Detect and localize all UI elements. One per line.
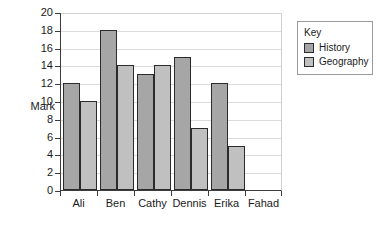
plot-area [60, 13, 282, 191]
x-tick-label-dennis: Dennis [172, 197, 206, 210]
y-axis-ticks: 02468101214161820 [0, 13, 60, 191]
bar-group [246, 13, 283, 190]
y-tick-label: 0 [47, 184, 53, 196]
bar-erika-history [211, 83, 228, 190]
legend-box: Key History Geography [297, 21, 373, 75]
legend-title: Key [304, 27, 367, 39]
x-tick-mark [281, 191, 282, 196]
bar-chart: Mark 02468101214161820 AliBenCathyDennis… [0, 0, 380, 233]
y-tick-label: 6 [47, 131, 53, 143]
legend-item-history: History [304, 42, 367, 54]
x-tick-mark [60, 191, 61, 196]
y-tick-label: 18 [41, 24, 53, 36]
x-tick-label-erika: Erika [214, 197, 239, 210]
y-tick-label: 8 [47, 113, 53, 125]
bar-group [61, 13, 98, 190]
x-tick-mark [97, 191, 98, 196]
y-tick-label: 12 [41, 77, 53, 89]
x-tick-label-cathy: Cathy [138, 197, 167, 210]
x-tick-label-fahad: Fahad [248, 197, 279, 210]
y-tick-label: 2 [47, 166, 53, 178]
bar-cathy-history [137, 74, 154, 190]
y-tick-label: 16 [41, 42, 53, 54]
legend-label-history: History [319, 42, 350, 54]
x-tick-label-ali: Ali [72, 197, 84, 210]
bar-cathy-geography [154, 65, 171, 190]
bar-ali-history [63, 83, 80, 190]
bar-erika-geography [228, 146, 245, 191]
legend-swatch-geography-icon [304, 57, 314, 67]
y-tick-label: 4 [47, 148, 53, 160]
bar-group [135, 13, 172, 190]
legend-item-geography: Geography [304, 56, 367, 68]
x-tick-mark [208, 191, 209, 196]
legend-swatch-history-icon [304, 43, 314, 53]
y-tick-label: 20 [41, 6, 53, 18]
x-tick-mark [245, 191, 246, 196]
legend-label-geography: Geography [319, 56, 368, 68]
bar-group [209, 13, 246, 190]
bar-ben-geography [117, 65, 134, 190]
y-tick-label: 10 [41, 95, 53, 107]
bars-layer [61, 13, 281, 190]
bar-dennis-history [174, 57, 191, 191]
bar-group [172, 13, 209, 190]
x-tick-mark [171, 191, 172, 196]
x-axis-labels: AliBenCathyDennisErikaFahad [60, 197, 282, 213]
bar-ali-geography [80, 101, 97, 190]
x-tick-label-ben: Ben [106, 197, 126, 210]
bar-ben-history [100, 30, 117, 190]
bar-group [98, 13, 135, 190]
y-tick-label: 14 [41, 59, 53, 71]
bar-dennis-geography [191, 128, 208, 190]
x-tick-mark [134, 191, 135, 196]
